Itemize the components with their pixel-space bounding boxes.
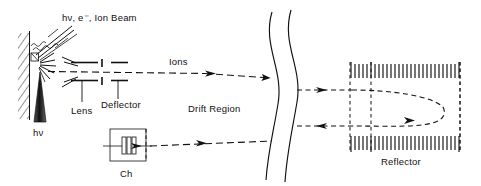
drift-tube (266, 10, 298, 182)
emission-burst (39, 53, 56, 82)
reflectron-tof-diagram: hν, e⁻, Ion Beam hν Lens Deflector Ions … (0, 0, 481, 186)
reflected-beam-upper (297, 87, 352, 93)
chopper (103, 129, 152, 161)
label-drift-region: Drift Region (188, 103, 241, 114)
chopper-beam (150, 140, 272, 146)
ion-lens (71, 63, 98, 103)
reflector-grid-bottom (351, 136, 459, 152)
label-source-beam: hν, e⁻, Ion Beam (62, 12, 137, 23)
label-lens: Lens (71, 105, 92, 116)
reflected-beam-lower (297, 123, 352, 129)
label-reflector: Reflector (381, 156, 421, 167)
diagram-canvas: hν, e⁻, Ion Beam hν Lens Deflector Ions … (0, 0, 481, 186)
incoming-beam (31, 26, 77, 60)
reflector-grid-top (351, 62, 459, 78)
ion-beam-forward (48, 71, 270, 79)
sample-wall (18, 31, 30, 120)
ion-deflector (102, 59, 128, 99)
label-chopper: Ch (120, 168, 133, 179)
reflector (350, 62, 460, 152)
label-ions: Ions (169, 56, 188, 67)
label-photon-input: hν (33, 127, 43, 138)
label-deflector: Deflector (101, 99, 141, 110)
